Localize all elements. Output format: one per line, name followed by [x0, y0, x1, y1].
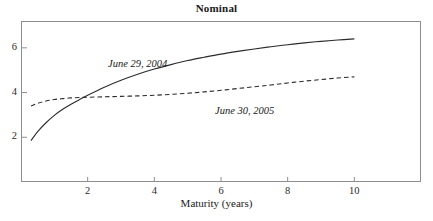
- series-annotation-2005: June 30, 2005: [215, 105, 274, 116]
- series-line-1: [31, 39, 354, 141]
- series-annotation-2004: June 29, 2004: [108, 58, 167, 69]
- x-tick-label: 6: [211, 185, 231, 196]
- x-axis-title: Maturity (years): [0, 197, 433, 209]
- chart-figure: Nominal 246 246810 Maturity (years) June…: [0, 0, 433, 221]
- x-tick-label: 4: [144, 185, 164, 196]
- x-tick-label: 8: [278, 185, 298, 196]
- x-tick-label: 2: [78, 185, 98, 196]
- series-group: [31, 39, 354, 141]
- series-line-2: [31, 77, 354, 106]
- chart-title: Nominal: [0, 2, 433, 14]
- y-tick-label: 4: [1, 86, 17, 97]
- plot-area: [21, 21, 421, 182]
- plot-canvas: [21, 21, 421, 182]
- tick-marks-group: [21, 48, 354, 182]
- y-tick-label: 6: [1, 41, 17, 52]
- x-tick-label: 10: [344, 185, 364, 196]
- y-tick-label: 2: [1, 130, 17, 141]
